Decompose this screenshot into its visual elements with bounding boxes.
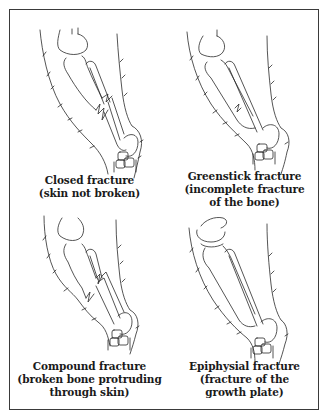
- panel-epiphysial-fracture: Epiphysial fracture (fracture of the gro…: [167, 212, 322, 412]
- epiphysial-fracture-description-line-2: growth plate): [167, 386, 322, 399]
- closed-fracture-description: (skin not broken): [12, 187, 167, 200]
- closed-fracture-title: Closed fracture: [12, 174, 167, 187]
- compound-fracture-caption: Compound fracture (broken bone protrudin…: [12, 360, 167, 399]
- compound-fracture-title: Compound fracture: [12, 360, 167, 373]
- panel-greenstick-fracture: Greenstick fracture (incomplete fracture…: [167, 12, 322, 212]
- greenstick-fracture-description-line-1: (incomplete fracture: [167, 183, 322, 196]
- epiphysial-fracture-caption: Epiphysial fracture (fracture of the gro…: [167, 360, 322, 399]
- epiphysial-fracture-description-line-1: (fracture of the: [167, 373, 322, 386]
- compound-fracture-description-line-2: through skin): [12, 386, 167, 399]
- panel-compound-fracture: Compound fracture (broken bone protrudin…: [12, 212, 167, 412]
- greenstick-fracture-description-line-2: of the bone): [167, 196, 322, 209]
- greenstick-fracture-caption: Greenstick fracture (incomplete fracture…: [167, 170, 322, 209]
- greenstick-fracture-title: Greenstick fracture: [167, 170, 322, 183]
- panel-closed-fracture: Closed fracture (skin not broken): [12, 12, 167, 212]
- figure-frame: Closed fracture (skin not broken): [9, 9, 319, 410]
- compound-fracture-description-line-1: (broken bone protruding: [12, 373, 167, 386]
- epiphysial-fracture-title: Epiphysial fracture: [167, 360, 322, 373]
- closed-fracture-caption: Closed fracture (skin not broken): [12, 174, 167, 200]
